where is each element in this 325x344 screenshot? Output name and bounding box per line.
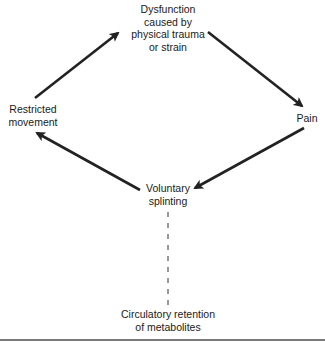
node-voluntary-splinting-line-1: Voluntary	[133, 182, 203, 195]
edge-dysfunction-to-pain	[208, 32, 302, 106]
node-pain: Pain	[290, 112, 324, 125]
node-dysfunction: Dysfunction caused by physical trauma or…	[118, 3, 218, 53]
node-circulatory-retention-line-1: Circulatory retention	[108, 308, 228, 321]
node-dysfunction-line-4: or strain	[118, 41, 218, 54]
node-restricted-movement-line-1: Restricted	[2, 103, 64, 116]
node-pain-line-1: Pain	[290, 112, 324, 125]
node-voluntary-splinting: Voluntary splinting	[133, 182, 203, 207]
bottom-rule-divider	[0, 339, 325, 341]
node-dysfunction-line-3: physical trauma	[118, 28, 218, 41]
edge-pain-to-splinting	[195, 128, 304, 188]
node-circulatory-retention: Circulatory retention of metabolites	[108, 308, 228, 333]
node-voluntary-splinting-line-2: splinting	[133, 195, 203, 208]
node-dysfunction-line-2: caused by	[118, 16, 218, 29]
node-restricted-movement-line-2: movement	[2, 116, 64, 129]
node-restricted-movement: Restricted movement	[2, 103, 64, 128]
edge-splinting-to-restricted	[37, 133, 140, 190]
node-dysfunction-line-1: Dysfunction	[118, 3, 218, 16]
edge-restricted-to-dysfunction	[35, 33, 118, 98]
node-circulatory-retention-line-2: of metabolites	[108, 321, 228, 334]
